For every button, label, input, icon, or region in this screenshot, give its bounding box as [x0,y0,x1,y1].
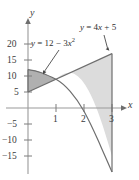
parabola-label-eq: = 12 − 3 [35,38,68,48]
x-tick-label-2: 2 [81,115,86,125]
y-tick-label-neg10: −10 [2,136,17,146]
x-axis-arrow [121,105,127,111]
graph-figure: 20 15 10 5 −5 −10 −15 1 2 3 y x y = 12 −… [0,0,139,180]
line-label-eq: = 4 [84,22,98,32]
y-tick-label-20: 20 [7,40,17,50]
x-tick-label-3: 3 [109,115,114,125]
parabola-leader-arrow [44,50,59,72]
plot-canvas [0,0,139,180]
y-tick-label-5: 5 [14,88,19,98]
y-tick-label-neg15: −15 [2,152,17,162]
parabola-equation-label: y = 12 − 3x2 [31,39,75,48]
y-axis-arrow [25,18,31,24]
y-tick-label-15: 15 [7,56,17,66]
x-axis-label: x [128,100,132,110]
line-leader-arrow [104,35,108,50]
y-axis-label: y [30,8,34,18]
parabola-label-exponent: 2 [72,36,75,43]
line-equation-label: y = 4x + 5 [80,23,116,32]
x-tick-label-1: 1 [53,115,58,125]
line-label-tail: + 5 [102,22,116,32]
y-tick-label-neg5: −5 [7,120,17,130]
y-tick-label-10: 10 [7,72,17,82]
